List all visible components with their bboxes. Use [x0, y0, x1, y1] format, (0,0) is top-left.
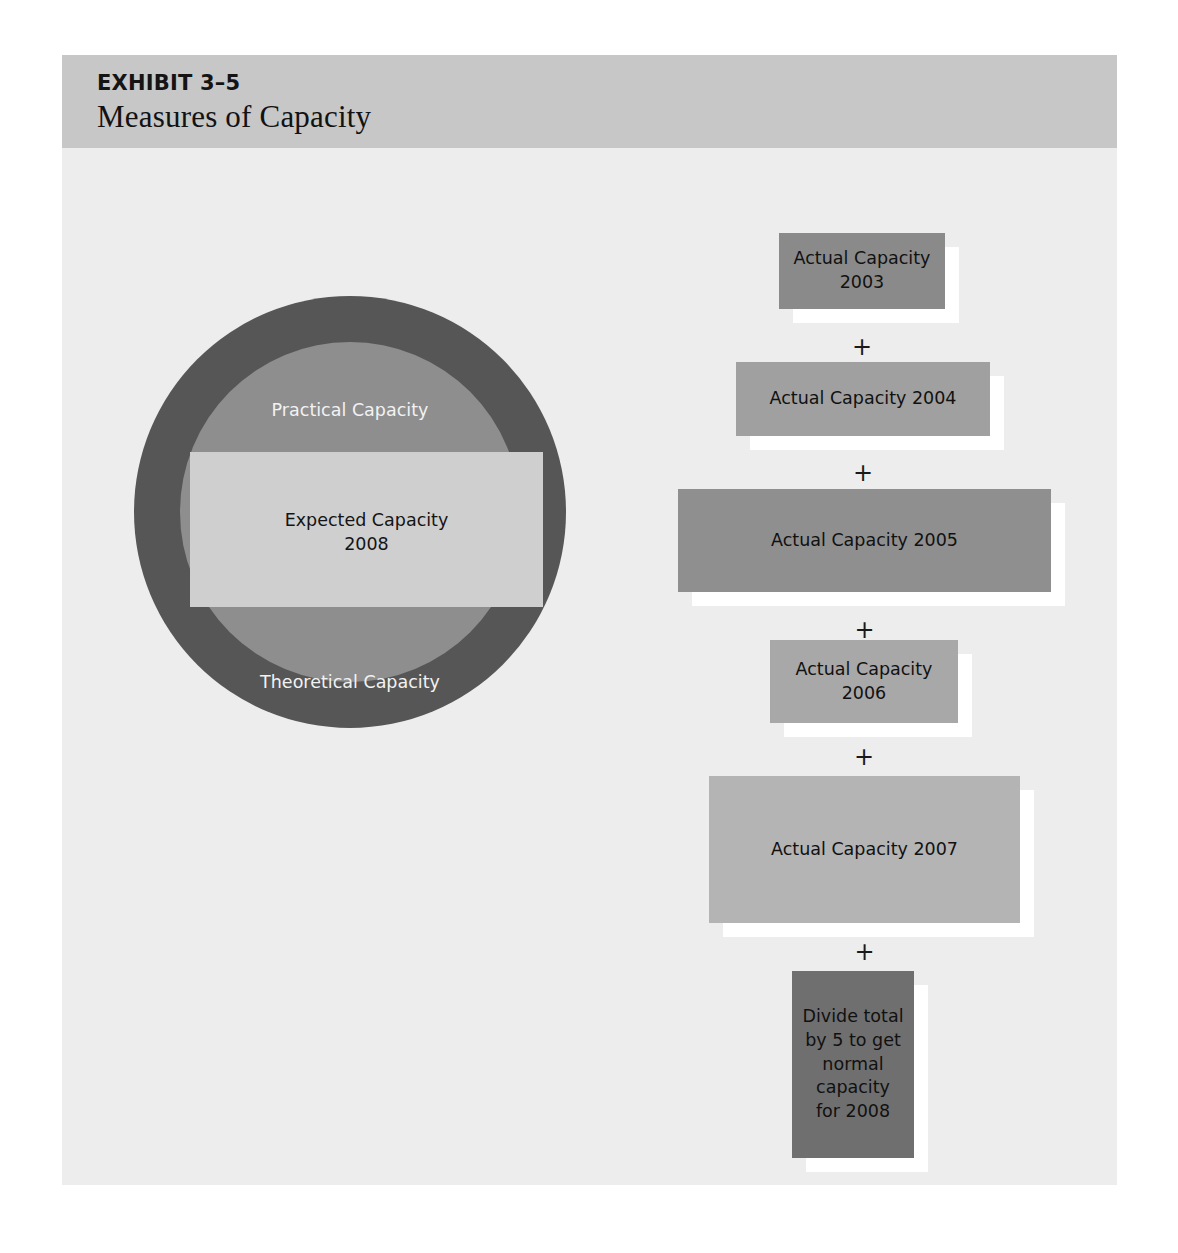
capacity-flow: Actual Capacity2003 + Actual Capacity 20… — [62, 148, 1117, 1185]
page-title: Measures of Capacity — [97, 99, 371, 135]
divide-total-line: normal — [822, 1054, 883, 1074]
divide-total-label: Divide totalby 5 to getnormalcapacityfor… — [802, 1005, 903, 1123]
capacity-box-2003: Actual Capacity2003 — [779, 233, 945, 309]
divide-total-line: for 2008 — [816, 1101, 890, 1121]
capacity-box-2004: Actual Capacity 2004 — [736, 362, 990, 436]
plus-operator-5: + — [709, 940, 1020, 964]
exhibit-body: Practical Capacity Expected Capacity 200… — [62, 148, 1117, 1185]
plus-operator-1: + — [779, 335, 945, 359]
capacity-box-2007: Actual Capacity 2007 — [709, 776, 1020, 923]
plus-operator-2: + — [736, 461, 990, 485]
exhibit-number: EXHIBIT 3–5 — [97, 71, 240, 95]
plus-operator-4: + — [770, 745, 958, 769]
divide-total-line: by 5 to get — [805, 1030, 901, 1050]
capacity-box-2003-label: Actual Capacity2003 — [794, 247, 931, 294]
capacity-box-2006: Actual Capacity2006 — [770, 640, 958, 723]
exhibit-header: EXHIBIT 3–5 Measures of Capacity — [62, 55, 1117, 148]
capacity-box-2004-label: Actual Capacity 2004 — [770, 387, 957, 411]
capacity-box-2005: Actual Capacity 2005 — [678, 489, 1051, 592]
plus-operator-3: + — [678, 618, 1051, 642]
exhibit-panel: EXHIBIT 3–5 Measures of Capacity Practic… — [62, 55, 1117, 1185]
divide-total-box: Divide totalby 5 to getnormalcapacityfor… — [792, 971, 914, 1158]
capacity-box-2007-label: Actual Capacity 2007 — [771, 838, 958, 862]
capacity-box-2006-label: Actual Capacity2006 — [796, 658, 933, 705]
divide-total-line: capacity — [816, 1077, 890, 1097]
divide-total-line: Divide total — [802, 1006, 903, 1026]
capacity-box-2005-label: Actual Capacity 2005 — [771, 529, 958, 553]
